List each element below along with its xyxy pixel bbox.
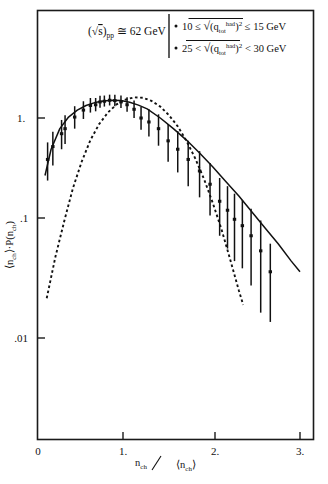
point-marker (249, 234, 252, 237)
point-marker (241, 224, 244, 227)
point-marker (46, 158, 49, 161)
point-marker (226, 209, 229, 212)
point-marker (98, 100, 101, 103)
figure-root: (√s)pp ≅ 62 GeV 10 ≤ √(qtothad)2 ≤ 15 Ge… (0, 0, 328, 484)
x-tick-0: 0 (35, 445, 41, 457)
svg-text:⟨nch⟩: ⟨nch⟩ (176, 459, 196, 473)
x-tick-label-3: 3. (296, 445, 305, 457)
point-marker (103, 100, 106, 103)
point-marker (187, 158, 190, 161)
x-axis-title: nch ⟨nch⟩ (135, 456, 196, 473)
point-marker (208, 183, 211, 186)
y-axis-title: ⟨nch⟩·P(nch) (4, 220, 18, 269)
plot-frame (38, 11, 314, 440)
point-marker (125, 103, 128, 106)
point-marker (166, 139, 169, 142)
point-marker (63, 127, 66, 130)
kno-scaling-plot: (√s)pp ≅ 62 GeV 10 ≤ √(qtothad)2 ≤ 15 Ge… (0, 0, 328, 484)
point-marker (139, 117, 142, 120)
point-marker (113, 99, 116, 102)
y-tick-label-1: .1 (20, 212, 28, 224)
bullet-icon (175, 25, 178, 28)
point-marker (269, 270, 272, 273)
x-tick-label-1: 1. (119, 445, 128, 457)
point-marker (147, 120, 150, 123)
point-marker (60, 132, 63, 135)
point-marker (157, 127, 160, 130)
point-marker (94, 103, 97, 106)
point-marker (176, 148, 179, 151)
y-tick-label-2: .01 (14, 332, 28, 344)
point-marker (73, 116, 76, 119)
y-tick-label-0: 1. (17, 112, 26, 124)
point-marker (132, 108, 135, 111)
legend-entry-0-text: 10 ≤ √(qtothad)2 ≤ 15 GeV (182, 19, 287, 34)
point-marker (89, 104, 92, 107)
x-tick-label-0: 0 (35, 445, 41, 457)
point-marker (259, 249, 262, 252)
point-marker (198, 169, 201, 172)
point-marker (119, 100, 122, 103)
point-marker (51, 145, 54, 148)
point-marker (82, 109, 85, 112)
svg-text:nch: nch (135, 457, 147, 471)
bullet-icon (175, 47, 178, 50)
point-marker (233, 218, 236, 221)
point-marker (218, 200, 221, 203)
point-marker (108, 99, 111, 102)
legend-entry-1-text: 25 < √(qtothad)2 < 30 GeV (182, 41, 287, 56)
x-tick-label-2: 2. (211, 445, 220, 457)
